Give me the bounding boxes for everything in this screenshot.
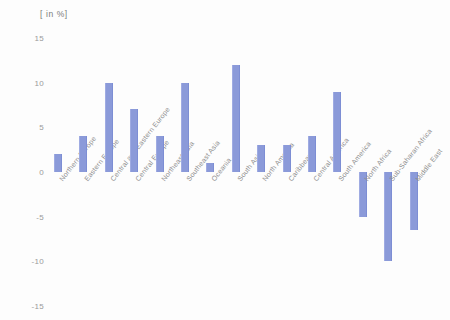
bar: [156, 136, 164, 172]
plot-area: Northern EuropeEastern EuropeCentral and…: [46, 30, 442, 306]
bar: [257, 145, 265, 172]
bar: [54, 154, 62, 172]
bar: [105, 83, 113, 172]
bar: [181, 83, 189, 172]
chart-axis-unit-title: [ in %]: [40, 9, 68, 19]
bar: [79, 136, 87, 172]
y-axis-tick-label: -15: [10, 302, 44, 311]
bar-chart: [ in %] 151050-5-10-15 Northern EuropeEa…: [0, 0, 450, 320]
y-axis-tick-label: 5: [10, 123, 44, 132]
bar: [333, 92, 341, 172]
x-axis-tick-label: Middle East: [414, 147, 443, 182]
y-axis: 151050-5-10-15: [0, 0, 44, 320]
bar: [206, 163, 214, 172]
bar: [283, 145, 291, 172]
y-axis-tick-label: 15: [10, 34, 44, 43]
y-axis-tick-label: -5: [10, 212, 44, 221]
bar: [384, 172, 392, 261]
y-axis-tick-label: -10: [10, 257, 44, 266]
bar: [130, 109, 138, 172]
bar: [410, 172, 418, 230]
bar: [308, 136, 316, 172]
y-axis-tick-label: 10: [10, 78, 44, 87]
bar: [232, 65, 240, 172]
y-axis-tick-label: 0: [10, 168, 44, 177]
